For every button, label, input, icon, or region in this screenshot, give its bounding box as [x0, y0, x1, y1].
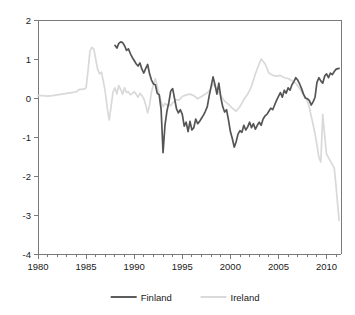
line-chart: 210-1-2-3-4 1980198519901995200020052010…: [0, 0, 355, 315]
series-line-finland: [115, 42, 339, 153]
x-tick-label: 2010: [316, 261, 337, 272]
y-tick-label: 0: [26, 93, 31, 104]
legend-item-ireland[interactable]: Ireland: [201, 292, 260, 303]
x-tick-label: 1990: [124, 261, 145, 272]
y-tick-label: 1: [26, 54, 31, 65]
legend-item-finland[interactable]: Finland: [111, 292, 172, 303]
y-tick-label: -2: [23, 171, 31, 182]
legend-label: Finland: [141, 292, 172, 303]
chart-figure: 210-1-2-3-4 1980198519901995200020052010…: [0, 0, 355, 315]
x-tick-label: 1985: [76, 261, 97, 272]
x-tick-label: 2000: [220, 261, 241, 272]
y-tick-label: -4: [23, 249, 31, 260]
x-tick-label: 1995: [172, 261, 193, 272]
x-tick-label: 1980: [27, 261, 48, 272]
plot-frame: [38, 20, 341, 254]
series-line-ireland: [38, 47, 339, 220]
y-tick-label: -1: [23, 132, 31, 143]
x-tick-label: 2005: [268, 261, 289, 272]
chart-legend: FinlandIreland: [111, 292, 260, 303]
legend-label: Ireland: [231, 292, 260, 303]
y-axis-tick-labels: 210-1-2-3-4: [23, 15, 31, 260]
x-axis-tick-labels: 1980198519901995200020052010: [27, 261, 337, 272]
y-tick-label: -3: [23, 210, 31, 221]
y-axis-ticks: [34, 20, 38, 254]
y-tick-label: 2: [26, 15, 31, 26]
data-series-group: [38, 42, 339, 221]
x-axis-ticks: [38, 254, 327, 259]
